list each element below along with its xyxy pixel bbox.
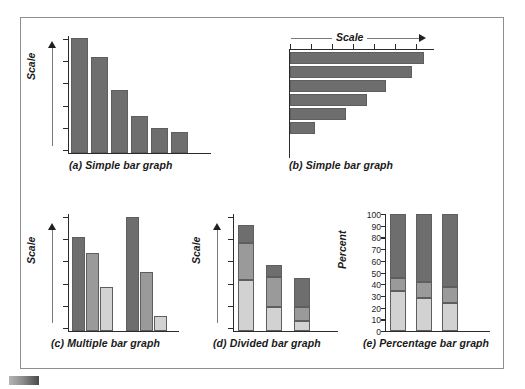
y-tick-e — [381, 319, 385, 320]
seg-e-1-bottom — [390, 291, 406, 331]
bar-c-g2-s3 — [154, 316, 167, 331]
x-tick-b — [395, 44, 396, 49]
bar-c-g2-s2 — [140, 272, 153, 331]
bar-a-6 — [171, 132, 188, 153]
y-tick-a — [63, 150, 68, 151]
bar-c-g1-s2 — [86, 253, 99, 331]
x-axis-b — [289, 49, 434, 50]
gradient-swatch-icon — [9, 376, 39, 385]
y-tick-c — [63, 306, 68, 307]
x-tick-b — [290, 44, 291, 49]
bar-c-g1-s1 — [72, 237, 85, 331]
y-axis-d — [233, 214, 234, 332]
y-tick-c — [63, 328, 68, 329]
y-tick-e — [381, 261, 385, 262]
x-tick-b — [332, 44, 333, 49]
bar-a-3 — [111, 90, 128, 153]
chart-d-divided-bar-graph: Scale (d) Divided bar graph — [196, 204, 361, 359]
y-tick-label-e: 50 — [364, 269, 381, 279]
seg-d-1-top — [238, 225, 254, 243]
y-tick-label-e: 20 — [364, 304, 381, 314]
y-tick-a — [63, 61, 68, 62]
y-axis-label-d: Scale — [190, 237, 202, 264]
y-tick-label-e: 0 — [364, 327, 381, 337]
y-tick-label-e: 80 — [364, 233, 381, 243]
caption-b: (b) Simple bar graph — [289, 159, 393, 171]
y-tick-d — [228, 261, 233, 262]
seg-d-2-middle — [266, 277, 282, 307]
y-axis-e — [385, 214, 386, 332]
bar-a-5 — [151, 128, 168, 153]
y-tick-e — [381, 284, 385, 285]
scale-arrow-line-d — [217, 230, 218, 323]
y-tick-a — [63, 83, 68, 84]
bar-b-2 — [290, 66, 412, 78]
caption-e: (e) Percentage bar graph — [363, 337, 489, 349]
y-tick-d — [228, 328, 233, 329]
y-tick-e — [381, 237, 385, 238]
y-tick-d — [228, 306, 233, 307]
y-tick-label-e: 100 — [364, 210, 381, 220]
caption-a: (a) Simple bar graph — [69, 159, 173, 171]
y-axis-a — [68, 36, 69, 154]
seg-e-2-bottom — [416, 298, 432, 331]
x-axis-a — [68, 153, 211, 154]
bar-a-4 — [131, 116, 148, 153]
seg-d-2-top — [266, 265, 282, 277]
scale-arrow-line-c — [52, 230, 53, 323]
y-tick-a — [63, 106, 68, 107]
bar-b-3 — [290, 80, 386, 92]
seg-d-3-bottom — [294, 321, 310, 331]
y-tick-d — [228, 239, 233, 240]
seg-d-1-bottom — [238, 280, 254, 331]
seg-e-2-middle — [416, 282, 432, 298]
y-axis-label-e: Percent — [336, 230, 348, 269]
x-axis-d — [233, 331, 338, 332]
y-tick-e — [381, 273, 385, 274]
bar-b-4 — [290, 94, 367, 106]
y-tick-e — [381, 214, 385, 215]
y-tick-d — [228, 284, 233, 285]
y-tick-c — [63, 239, 68, 240]
figure-page: Scale (a) Simple bar graph — [0, 0, 525, 389]
scale-arrow-head-a — [48, 41, 56, 48]
y-tick-e — [381, 331, 385, 332]
bar-a-2 — [91, 57, 108, 153]
scale-arrow-line-a — [52, 48, 53, 146]
scale-arrow-head-d — [213, 223, 221, 230]
y-tick-a — [63, 39, 68, 40]
y-tick-c — [63, 261, 68, 262]
x-tick-b — [353, 44, 354, 49]
y-tick-d — [228, 217, 233, 218]
bar-a-1 — [71, 38, 88, 153]
seg-d-3-middle — [294, 307, 310, 321]
y-tick-label-e: 40 — [364, 280, 381, 290]
y-tick-a — [63, 128, 68, 129]
y-axis-c — [68, 214, 69, 332]
chart-b-simple-bar-graph: Scale (b) Simple bar graph — [276, 26, 491, 191]
y-axis-label-c: Scale — [25, 237, 37, 264]
seg-d-1-middle — [238, 243, 254, 280]
x-tick-b — [311, 44, 312, 49]
seg-e-2-top — [416, 214, 432, 282]
bar-c-g2-s1 — [126, 217, 139, 331]
bar-b-5 — [290, 108, 346, 120]
seg-e-3-bottom — [442, 303, 458, 331]
scale-arrow-head-b — [419, 34, 426, 42]
seg-e-3-middle — [442, 287, 458, 303]
y-tick-label-e: 60 — [364, 257, 381, 267]
seg-d-3-top — [294, 278, 310, 307]
y-tick-label-e: 30 — [364, 292, 381, 302]
seg-e-3-top — [442, 214, 458, 287]
y-tick-e — [381, 226, 385, 227]
bar-b-1 — [290, 52, 424, 64]
seg-e-1-middle — [390, 278, 406, 291]
y-axis-label-a: Scale — [25, 53, 37, 80]
seg-d-2-bottom — [266, 307, 282, 331]
figure-frame: Scale (a) Simple bar graph — [20, 17, 504, 369]
x-axis-label-b: Scale — [332, 31, 367, 43]
caption-d: (d) Divided bar graph — [213, 337, 321, 349]
y-tick-e — [381, 296, 385, 297]
y-tick-label-e: 70 — [364, 245, 381, 255]
y-tick-c — [63, 284, 68, 285]
